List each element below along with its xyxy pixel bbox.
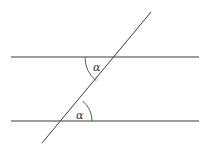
transversal-line [42,12,151,143]
parallel-lines-diagram: α α [0,0,208,157]
lower-angle-arc [83,101,92,121]
lower-angle-label: α [76,109,84,122]
upper-angle-label: α [93,61,101,74]
